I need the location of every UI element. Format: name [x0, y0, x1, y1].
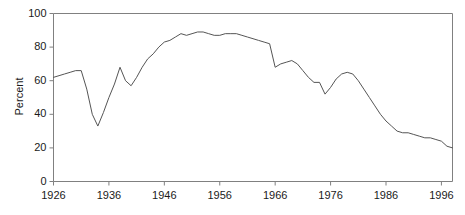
x-tick-label: 1966 [245, 190, 305, 201]
line-chart-plot [0, 0, 465, 215]
x-tick-label: 1996 [411, 190, 465, 201]
chart-container: Percent 02040608010019261936194619561966… [0, 0, 465, 215]
y-tick-label: 0 [40, 176, 46, 187]
y-tick-label: 60 [34, 75, 46, 86]
x-tick-label: 1926 [24, 190, 84, 201]
x-tick-label: 1956 [190, 190, 250, 201]
series-line-percent [54, 32, 453, 148]
y-tick-label: 100 [28, 8, 46, 19]
x-tick-label: 1986 [356, 190, 416, 201]
x-tick-label: 1936 [79, 190, 139, 201]
x-tick-label: 1946 [134, 190, 194, 201]
x-tick-label: 1976 [301, 190, 361, 201]
y-axis-title: Percent [14, 66, 25, 126]
y-tick-label: 20 [34, 142, 46, 153]
y-tick-label: 80 [34, 41, 46, 52]
y-tick-label: 40 [34, 108, 46, 119]
